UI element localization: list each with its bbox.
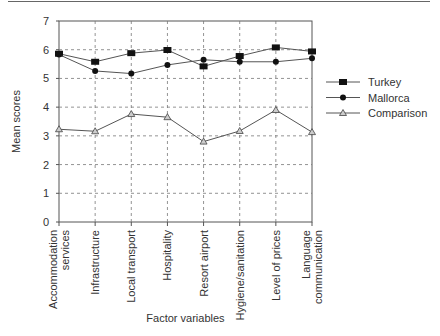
x-tick-label: Hygiene/sanitation — [234, 230, 246, 321]
circle-marker — [340, 95, 346, 101]
x-axis-title: Factor variables — [146, 312, 225, 324]
legend: TurkeyMallorcaComparison — [326, 76, 427, 119]
circle-marker — [164, 62, 170, 68]
x-tick-label-group: Level of prices — [270, 230, 282, 301]
triangle-marker — [56, 126, 63, 132]
y-tick-label: 0 — [43, 216, 49, 228]
x-tick-label: Resort airport — [198, 230, 210, 297]
square-marker — [236, 53, 244, 59]
y-tick-label: 3 — [43, 130, 49, 142]
y-tick-label: 5 — [43, 72, 49, 84]
square-marker — [272, 44, 280, 50]
series-line — [59, 110, 312, 142]
x-tick-label: services — [59, 230, 71, 271]
circle-marker — [56, 52, 62, 58]
x-tick-label: Local transport — [125, 230, 137, 303]
line-chart: 01234567AccommodationservicesInfrastruct… — [0, 0, 440, 336]
x-tick-label-group: Hospitality — [161, 230, 173, 281]
circle-marker — [92, 68, 98, 74]
x-tick-label-group: Hygiene/sanitation — [234, 230, 246, 321]
y-tick-label: 1 — [43, 187, 49, 199]
legend-label-comparison: Comparison — [368, 107, 427, 119]
square-marker — [339, 79, 347, 85]
square-marker — [308, 48, 316, 54]
circle-marker — [128, 71, 134, 77]
x-tick-label: Hospitality — [161, 230, 173, 281]
x-tick-label: communication — [312, 230, 324, 304]
square-marker — [127, 50, 135, 56]
legend-label-turkey: Turkey — [368, 76, 402, 88]
triangle-marker — [272, 107, 279, 113]
square-marker — [163, 47, 171, 53]
x-tick-label: Language — [300, 230, 312, 279]
x-tick-label: Level of prices — [270, 230, 282, 301]
x-tick-label-group: Accommodationservices — [47, 230, 71, 309]
y-tick-label: 7 — [43, 15, 49, 27]
y-tick-label: 4 — [43, 101, 49, 113]
circle-marker — [273, 59, 279, 65]
x-tick-label-group: Infrastructure — [89, 230, 101, 295]
x-tick-label: Accommodation — [47, 230, 59, 309]
triangle-marker — [309, 129, 316, 135]
circle-marker — [201, 57, 207, 63]
legend-label-mallorca: Mallorca — [368, 92, 410, 104]
series-turkey — [55, 44, 316, 69]
y-tick-label: 2 — [43, 159, 49, 171]
square-marker — [200, 63, 208, 69]
x-tick-label-group: Resort airport — [198, 230, 210, 297]
triangle-marker — [236, 127, 243, 133]
series-comparison — [56, 107, 316, 145]
x-tick-label-group: Local transport — [125, 230, 137, 303]
square-marker — [91, 59, 99, 65]
y-tick-label: 6 — [43, 44, 49, 56]
x-tick-label-group: Languagecommunication — [300, 230, 324, 304]
triangle-marker — [128, 111, 135, 117]
y-axis-title: Mean scores — [10, 90, 22, 153]
circle-marker — [237, 59, 243, 65]
plot-frame — [59, 21, 312, 222]
x-tick-label: Infrastructure — [89, 230, 101, 295]
circle-marker — [309, 55, 315, 61]
